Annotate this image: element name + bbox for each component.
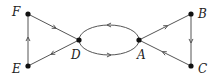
graph-diagram: F E D A B C xyxy=(0,0,215,80)
edges-group xyxy=(28,14,191,66)
arrowheads-group xyxy=(26,23,193,57)
node-label-c: C xyxy=(198,63,207,75)
nodes-group xyxy=(25,11,193,68)
edge-f-to-d xyxy=(28,14,79,40)
node-label-f: F xyxy=(12,6,20,18)
node-label-e: E xyxy=(12,63,21,75)
node-f xyxy=(25,11,30,16)
node-c xyxy=(188,63,193,68)
graph-svg xyxy=(0,0,215,80)
node-label-a: A xyxy=(137,49,146,61)
node-a xyxy=(136,37,141,42)
edge-c-to-a xyxy=(139,40,191,66)
node-d xyxy=(76,37,81,42)
node-b xyxy=(188,11,193,16)
node-label-d: D xyxy=(71,49,81,61)
node-label-b: B xyxy=(198,8,207,20)
edge-a-to-b xyxy=(139,14,191,40)
edge-d-to-a xyxy=(79,40,139,55)
edge-a-to-d xyxy=(79,25,139,40)
node-e xyxy=(25,63,30,68)
